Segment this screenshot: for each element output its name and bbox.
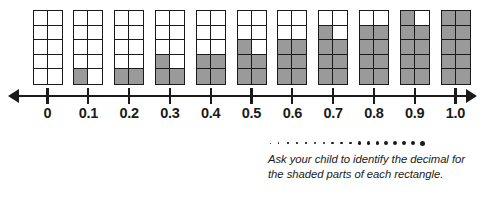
axis-tick: [128, 88, 130, 104]
shaded-cell: [319, 55, 333, 70]
shaded-cell: [292, 55, 306, 70]
empty-cell: [170, 40, 184, 55]
empty-cell: [292, 11, 306, 26]
shaded-cell: [442, 26, 456, 41]
gradient-dot: [420, 141, 425, 146]
shaded-cell: [456, 55, 470, 70]
decimal-rectangle: [155, 10, 185, 85]
axis-tick-label: 0.2: [106, 105, 152, 121]
shaded-cell: [415, 55, 429, 70]
empty-cell: [170, 11, 184, 26]
empty-cell: [115, 55, 129, 70]
empty-cell: [211, 26, 225, 41]
axis-tick-label: 0.9: [392, 105, 438, 121]
axis-tick: [373, 88, 375, 104]
shaded-cell: [292, 69, 306, 84]
empty-cell: [34, 11, 48, 26]
decimal-rectangle: [33, 10, 63, 85]
shaded-cell: [319, 40, 333, 55]
empty-cell: [374, 11, 388, 26]
decimal-rectangle: [237, 10, 267, 85]
empty-cell: [319, 11, 333, 26]
axis-tick: [210, 88, 212, 104]
shaded-cell: [156, 69, 170, 84]
gradient-dot: [270, 143, 271, 144]
shaded-cell: [401, 11, 415, 26]
shaded-cell: [170, 69, 184, 84]
shaded-cell: [74, 69, 88, 84]
empty-cell: [88, 55, 102, 70]
shaded-cell: [115, 69, 129, 84]
shaded-cell: [278, 69, 292, 84]
shaded-cell: [456, 69, 470, 84]
axis-tick-label: 0.5: [229, 105, 275, 121]
decimal-rectangle: [73, 10, 103, 85]
shaded-cell: [360, 40, 374, 55]
empty-cell: [48, 40, 62, 55]
decimal-rectangle: [277, 10, 307, 85]
empty-cell: [129, 40, 143, 55]
shaded-cell: [456, 11, 470, 26]
axis-tick-label: 0.8: [351, 105, 397, 121]
empty-cell: [48, 11, 62, 26]
shaded-cell: [252, 55, 266, 70]
decimal-rectangle: [196, 10, 226, 85]
gradient-dot: [323, 142, 325, 144]
empty-cell: [156, 26, 170, 41]
gradient-dot: [331, 142, 333, 144]
empty-cell: [88, 11, 102, 26]
shaded-cell: [278, 55, 292, 70]
gradient-dot: [376, 141, 380, 145]
empty-cell: [415, 11, 429, 26]
axis-tick-label: 0.3: [147, 105, 193, 121]
axis-tick: [169, 88, 171, 104]
shaded-cell: [415, 26, 429, 41]
empty-cell: [156, 11, 170, 26]
empty-cell: [74, 40, 88, 55]
decimal-rectangle: [441, 10, 471, 85]
decimal-rectangle: [400, 10, 430, 85]
shaded-cell: [442, 69, 456, 84]
empty-cell: [252, 11, 266, 26]
shaded-cell: [374, 69, 388, 84]
shaded-cell: [129, 69, 143, 84]
empty-cell: [252, 26, 266, 41]
empty-cell: [211, 11, 225, 26]
shaded-cell: [442, 55, 456, 70]
shaded-cell: [360, 55, 374, 70]
empty-cell: [74, 26, 88, 41]
axis-line: [18, 95, 468, 97]
gradient-dot: [393, 141, 397, 145]
axis-tick-label: 0.7: [310, 105, 356, 121]
empty-cell: [34, 40, 48, 55]
number-line: 00.10.20.30.40.50.60.70.80.91.0: [0, 86, 488, 126]
empty-cell: [48, 26, 62, 41]
shaded-cell: [360, 69, 374, 84]
caption-text: Ask your child to identify the decimal f…: [268, 152, 481, 181]
empty-cell: [278, 26, 292, 41]
shaded-cell: [238, 55, 252, 70]
arrow-right-icon: [466, 89, 477, 103]
axis-tick: [250, 88, 252, 104]
shaded-cell: [197, 69, 211, 84]
shaded-cell: [278, 40, 292, 55]
empty-cell: [88, 40, 102, 55]
decimal-rectangle: [318, 10, 348, 85]
shaded-cell: [360, 26, 374, 41]
gradient-dot: [314, 142, 316, 144]
shaded-cell: [319, 69, 333, 84]
gradient-dot: [305, 142, 307, 144]
gradient-dot: [340, 142, 343, 145]
shaded-cell: [415, 69, 429, 84]
gradient-dot: [287, 142, 288, 143]
shaded-cell: [374, 26, 388, 41]
empty-cell: [129, 11, 143, 26]
empty-cell: [156, 40, 170, 55]
gradient-dot: [296, 142, 297, 143]
decimal-rectangle: [114, 10, 144, 85]
shaded-cell: [456, 26, 470, 41]
empty-cell: [333, 26, 347, 41]
shaded-cell: [211, 69, 225, 84]
axis-tick-label: 0.1: [65, 105, 111, 121]
axis-tick-label: 0.4: [188, 105, 234, 121]
